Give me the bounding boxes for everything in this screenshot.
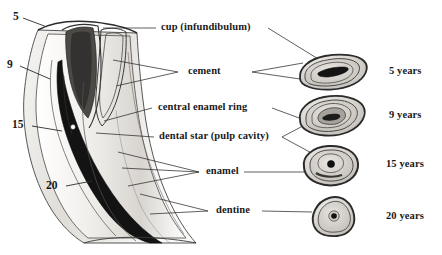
age-mark-9: 9 xyxy=(7,59,13,71)
part-label-dental-star: dental star (pulp cavity) xyxy=(159,131,269,142)
part-label-central-enamel-ring: central enamel ring xyxy=(158,102,247,113)
leader-dentine-right xyxy=(262,211,312,212)
age-row-15-years: 15 years xyxy=(386,159,424,170)
age-row-9-years: 9 years xyxy=(389,110,421,121)
age-mark-5: 5 xyxy=(13,11,19,23)
leader-cement-right-a xyxy=(252,72,300,79)
caption-fragment xyxy=(8,247,268,255)
cross-section-5-years xyxy=(300,55,367,90)
part-label-cement: cement xyxy=(188,66,221,77)
part-label-dentine: dentine xyxy=(216,205,250,216)
leader-cement-right-b xyxy=(252,63,303,72)
xs20-dental-star-dot xyxy=(331,213,337,219)
dental-star-lumen-dot xyxy=(71,125,76,130)
age-mark-15: 15 xyxy=(12,119,24,131)
xs15-dental-star-dot xyxy=(327,160,334,167)
part-label-cup: cup (infundibulum) xyxy=(161,22,251,33)
cross-section-15-years xyxy=(304,146,358,185)
diagram-illustration xyxy=(0,0,442,255)
age-mark-20: 20 xyxy=(46,180,58,192)
cross-section-20-years xyxy=(313,197,355,236)
tooth-wear-figure: 5 9 15 20 cup (infundibulum) cement cent… xyxy=(0,0,442,255)
leader-mark-5 xyxy=(23,18,47,27)
part-label-enamel: enamel xyxy=(206,166,239,177)
cross-section-9-years xyxy=(300,96,365,136)
age-row-20-years: 20 years xyxy=(386,211,424,222)
age-row-5-years: 5 years xyxy=(389,66,421,77)
